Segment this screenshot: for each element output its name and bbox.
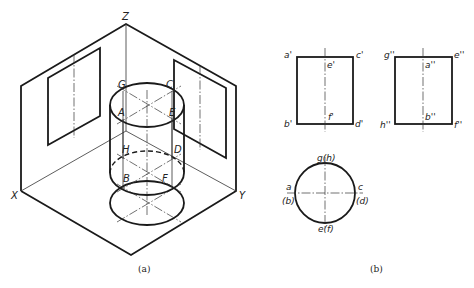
label-point-g: G: [118, 79, 126, 90]
label-b-hidden: (b): [282, 196, 295, 206]
label-c: c: [358, 182, 363, 192]
label-e-prime: e': [327, 60, 335, 70]
label-d-hidden: (d): [356, 196, 369, 206]
label-b-prime: b': [284, 119, 292, 129]
label-a-double-prime: a'': [425, 60, 435, 70]
label-d-prime: d': [355, 119, 363, 129]
caption-b: (b): [370, 264, 383, 274]
label-point-d: D: [174, 144, 182, 155]
label-e-f: e(f): [318, 224, 334, 234]
label-a-prime: a': [284, 50, 292, 60]
label-point-b: B: [123, 173, 130, 184]
label-f-prime: f': [328, 112, 334, 122]
label-a: a: [286, 182, 292, 192]
caption-a: (a): [138, 264, 150, 274]
label-b-double-prime: b'': [425, 112, 436, 122]
label-g-double-prime: g'': [384, 50, 395, 60]
outer-frame: [21, 24, 236, 255]
isometric-view: Z X Y G C A E H D B F (a): [10, 11, 246, 274]
side-view-rect: [395, 57, 452, 124]
label-y: Y: [239, 190, 246, 201]
label-point-h: H: [122, 144, 130, 155]
orthographic-views: a' e' c' b' f' d' g'' a'' e'' h'' b'' f'…: [282, 48, 465, 274]
label-point-a: A: [117, 107, 125, 118]
label-point-e: E: [169, 107, 176, 118]
label-point-f: F: [162, 173, 168, 184]
label-g-h: g(h): [317, 153, 335, 163]
projection-diagram: Z X Y G C A E H D B F (a) a' e' c' b' f'…: [0, 0, 474, 288]
label-e-double-prime: e'': [454, 50, 465, 60]
label-point-c: C: [166, 79, 173, 90]
label-c-prime: c': [356, 50, 363, 60]
label-h-double-prime: h'': [380, 120, 391, 130]
label-f-double-prime: f'': [454, 120, 462, 130]
label-x: X: [10, 190, 19, 201]
label-z: Z: [121, 11, 130, 22]
